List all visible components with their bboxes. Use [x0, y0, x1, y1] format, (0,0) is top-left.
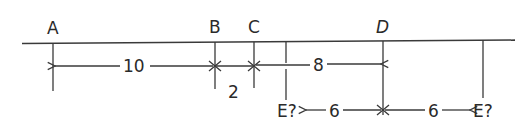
point-label-a: A [47, 18, 59, 38]
number-line-diagram: A B C D 10 2 8 E? 6 6 E? [0, 0, 518, 121]
candidate-label-e-right: E? [473, 101, 493, 121]
dim-label-d-e: 6 [428, 101, 439, 121]
point-label-b: B [209, 17, 221, 37]
dim-label-c-d: 8 [313, 55, 324, 75]
candidate-label-e-left: E? [277, 101, 297, 121]
dim-label-a-b: 10 [123, 56, 145, 76]
dim-label-e-d: 6 [329, 101, 340, 121]
dim-label-b-c: 2 [228, 82, 239, 102]
point-label-c: C [248, 17, 260, 37]
point-label-d: D [376, 17, 389, 37]
main-line [22, 40, 515, 44]
